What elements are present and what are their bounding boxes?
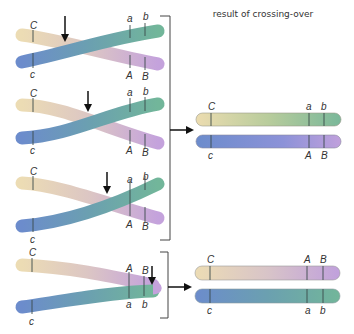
result-chromosomes-2: C A B c a b (195, 254, 340, 316)
svg-text:C: C (29, 247, 37, 258)
result-chromosome-bottom (196, 135, 341, 148)
chromosome-pair-1: C c a b A B (22, 11, 158, 82)
svg-text:A: A (125, 263, 133, 274)
svg-text:b: b (142, 299, 148, 310)
svg-text:A: A (303, 254, 311, 265)
svg-text:c: c (207, 305, 212, 316)
svg-text:B: B (142, 265, 149, 276)
chromosome-dark (22, 291, 153, 307)
svg-text:a: a (305, 305, 311, 316)
down-arrow-icon (84, 91, 92, 112)
bracket-top-group (160, 16, 170, 240)
down-arrow-icon (103, 172, 111, 194)
result-chromosome-bottom (195, 289, 340, 303)
crossing-over-diagram: result of crossing-over C c a b A B C c … (0, 0, 354, 334)
svg-text:C: C (30, 20, 38, 31)
result-chromosome-top (195, 266, 340, 280)
right-arrow-icon (170, 126, 194, 134)
svg-text:B: B (142, 221, 149, 232)
svg-text:b: b (143, 11, 149, 22)
svg-text:a: a (306, 101, 312, 112)
svg-text:B: B (321, 150, 328, 161)
result-chromosomes-1: C a b c A B (196, 101, 341, 161)
svg-text:B: B (142, 147, 149, 158)
right-arrow-icon (168, 283, 192, 291)
svg-text:c: c (29, 316, 34, 327)
chromosome-pair-2: C c a b A B (22, 86, 158, 158)
svg-text:a: a (126, 299, 132, 310)
svg-text:b: b (321, 101, 327, 112)
result-chromosome-top (196, 113, 341, 126)
svg-text:a: a (127, 87, 133, 98)
svg-text:a: a (127, 174, 133, 185)
title-result-of-crossing-over: result of crossing-over (213, 9, 314, 19)
svg-text:A: A (304, 150, 312, 161)
svg-text:b: b (320, 305, 326, 316)
svg-text:C: C (30, 166, 38, 177)
svg-text:b: b (143, 171, 149, 182)
bracket-bottom-group (160, 252, 168, 318)
svg-text:b: b (143, 86, 149, 97)
svg-text:C: C (30, 88, 38, 99)
svg-text:A: A (125, 70, 133, 81)
chromosome-pair-4: C c A B a b (22, 247, 158, 327)
svg-text:a: a (127, 13, 133, 24)
chromosome-light (22, 265, 153, 285)
svg-text:B: B (142, 71, 149, 82)
chromosome-pair-3: C c a b A B (22, 166, 158, 245)
svg-text:c: c (30, 145, 35, 156)
svg-text:c: c (30, 69, 35, 80)
svg-text:C: C (208, 101, 216, 112)
svg-text:A: A (125, 145, 133, 156)
svg-text:C: C (207, 254, 215, 265)
svg-text:A: A (125, 219, 133, 230)
svg-text:B: B (320, 254, 327, 265)
svg-text:c: c (208, 150, 213, 161)
svg-text:c: c (30, 234, 35, 245)
